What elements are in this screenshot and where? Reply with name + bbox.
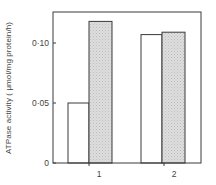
- y-axis-label: ATPase activity ( μmol/mg protein/h): [4, 22, 13, 154]
- bars-group: [68, 21, 185, 163]
- y-axis-ticks: 00·050·10: [32, 38, 56, 168]
- y-tick-label: 0·05: [32, 98, 49, 108]
- y-tick-label: 0·10: [32, 38, 49, 48]
- bar-shaded-1: [89, 21, 112, 163]
- y-tick-label: 0: [44, 158, 49, 168]
- bar-open-1: [68, 103, 89, 163]
- x-tick-label: 2: [172, 169, 177, 179]
- bar-shaded-2: [162, 32, 185, 163]
- x-axis-ticks: 12: [89, 163, 177, 179]
- x-tick-label: 1: [97, 169, 102, 179]
- bar-open-2: [141, 35, 162, 163]
- chart-canvas: 00·050·10 12: [0, 0, 216, 185]
